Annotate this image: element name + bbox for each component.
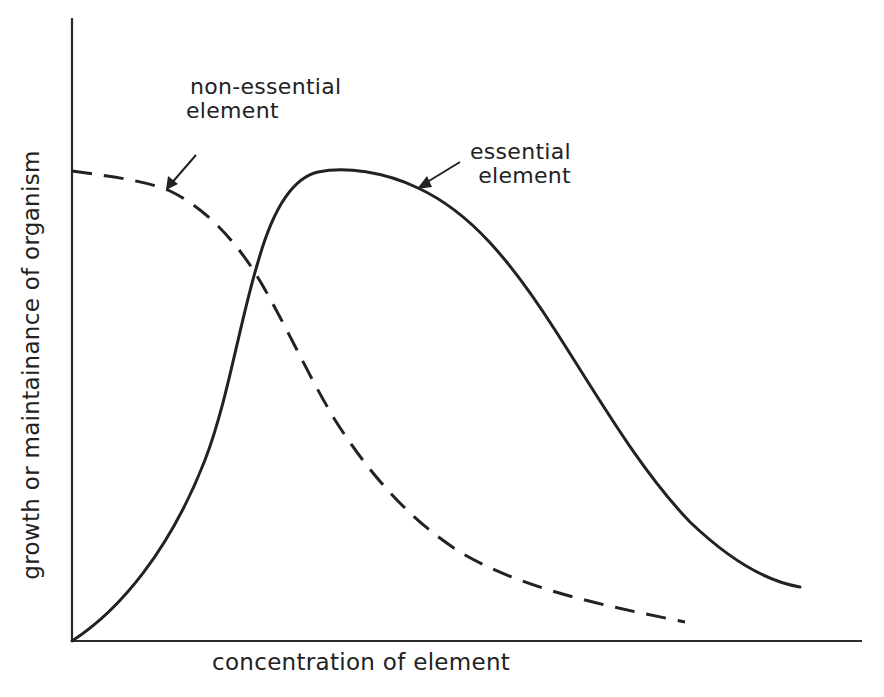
x-axis-label: concentration of element bbox=[212, 650, 510, 674]
essential-annotation-line2: element bbox=[470, 164, 571, 188]
y-axis-label: growth or maintainance of organism bbox=[19, 150, 43, 579]
non-essential-annotation: non-essential element bbox=[190, 75, 341, 123]
essential-annotation: essential element bbox=[470, 140, 571, 188]
non-essential-arrow bbox=[166, 155, 196, 190]
non-essential-element-curve bbox=[72, 171, 685, 622]
non-essential-annotation-line2: element bbox=[186, 99, 341, 123]
non-essential-annotation-line1: non-essential bbox=[190, 74, 341, 99]
essential-annotation-line1: essential bbox=[470, 139, 571, 164]
essential-arrow bbox=[417, 162, 460, 189]
chart-plot-area bbox=[0, 0, 884, 697]
essential-element-curve bbox=[72, 170, 800, 641]
